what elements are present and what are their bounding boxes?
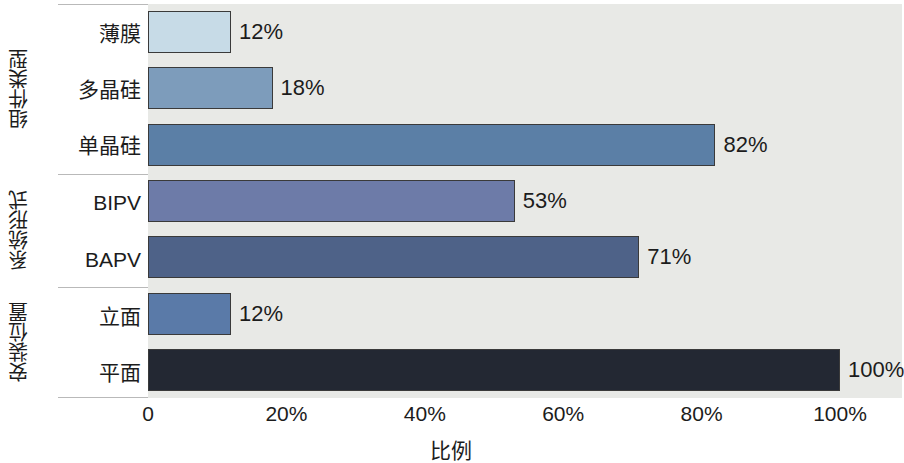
y-axis-group: 薄膜多晶硅单晶硅 — [58, 5, 148, 174]
x-axis-tick-label: 20% — [265, 402, 307, 426]
y-axis-category-label: 平面 — [58, 345, 148, 401]
y-axis-group: 立面平面 — [58, 287, 148, 401]
y-axis-category-label: BAPV — [58, 231, 148, 287]
y-axis-category-label: 多晶硅 — [58, 61, 148, 117]
y-axis-category-label: BIPV — [58, 175, 148, 231]
x-axis-tick-label: 40% — [404, 402, 446, 426]
x-axis-tick-label: 60% — [542, 402, 584, 426]
y-axis-category-label: 立面 — [58, 288, 148, 344]
plot-area — [58, 4, 902, 398]
x-axis-title: 比例 — [0, 434, 902, 463]
x-axis-tick-label: 0 — [142, 402, 154, 426]
y-axis-group: BIPVBAPV — [58, 174, 148, 288]
y-axis-category-label: 单晶硅 — [58, 118, 148, 174]
y-axis-group-title: 组件类型 — [4, 4, 34, 173]
x-axis-tick-label: 80% — [681, 402, 723, 426]
y-axis-category-panel: 薄膜多晶硅单晶硅BIPVBAPV立面平面 — [58, 4, 148, 398]
y-axis-category-label: 薄膜 — [58, 5, 148, 61]
y-axis-group-title: 安装位置 — [4, 285, 34, 398]
x-axis-ticks: 020%40%60%80%100% — [148, 402, 840, 430]
x-axis-tick-label: 100% — [813, 402, 867, 426]
y-axis-group-title: 系统形式 — [4, 173, 34, 286]
